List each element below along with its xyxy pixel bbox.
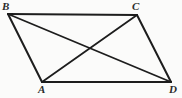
diagonal-AC [42, 15, 137, 82]
vertex-label-D: D [169, 84, 177, 95]
geometry-figure: B C A D [0, 0, 182, 98]
vertex-label-A: A [38, 84, 45, 95]
vertex-label-C: C [132, 1, 139, 12]
side-CD [137, 15, 171, 82]
side-BC [8, 14, 137, 15]
vertex-label-B: B [2, 1, 9, 12]
figure-canvas [0, 0, 182, 98]
side-BA [8, 14, 42, 82]
